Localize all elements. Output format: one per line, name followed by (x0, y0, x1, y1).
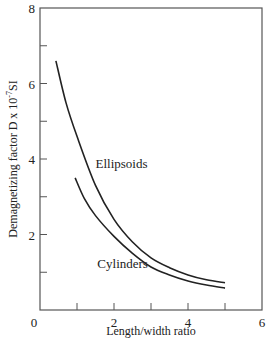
y-tick-label: 4 (29, 152, 36, 167)
demagnetizing-factor-chart: 0246 2468 EllipsoidsCylinders Length/wid… (0, 0, 266, 343)
y-tick-label: 6 (29, 77, 36, 92)
label-cylinders: Cylinders (97, 256, 148, 271)
curve-cylinders (75, 178, 225, 288)
y-axis-label-main: Demagnetizing factor D x 10 (6, 98, 20, 238)
x-axis-label: Length/width ratio (106, 324, 196, 338)
y-axis-label-exponent: -7 (5, 91, 14, 98)
y-axis-ticks: 2468 (29, 1, 48, 272)
x-tick-label: 0 (31, 315, 38, 330)
curve-ellipsoids (56, 61, 225, 283)
y-axis-label-unit: SI (6, 80, 20, 91)
label-ellipsoids: Ellipsoids (96, 156, 148, 171)
x-tick-label: 6 (259, 315, 266, 330)
y-tick-label: 8 (29, 1, 36, 16)
y-tick-label: 2 (29, 228, 36, 243)
curve-labels: EllipsoidsCylinders (96, 156, 148, 271)
y-axis-label: Demagnetizing factor D x 10-7SI (5, 80, 20, 237)
plot-frame (40, 8, 262, 310)
data-curves (56, 61, 225, 288)
